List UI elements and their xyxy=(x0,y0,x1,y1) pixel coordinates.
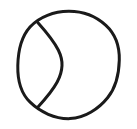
circle-arc-figure: Circle with inner arc A hand-drawn open … xyxy=(0,0,137,129)
figure-canvas: Circle with inner arc A hand-drawn open … xyxy=(0,0,137,129)
outer-circle-path xyxy=(18,11,120,118)
inner-arc-path xyxy=(38,22,62,107)
